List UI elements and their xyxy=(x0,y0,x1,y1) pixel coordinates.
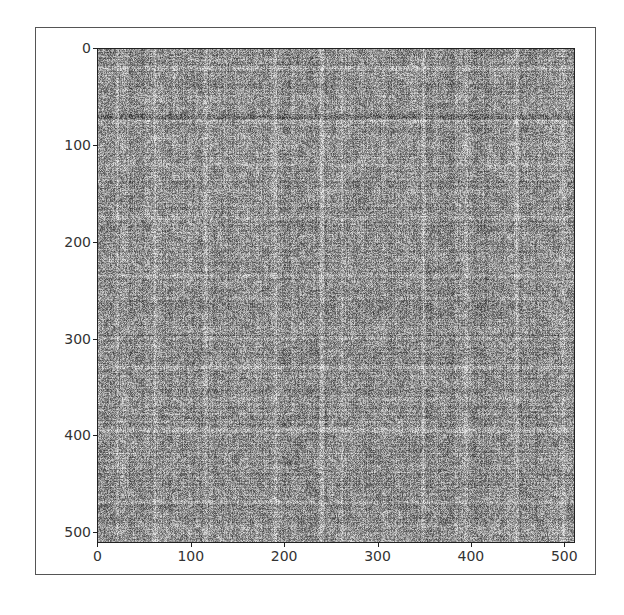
x-tick-mark xyxy=(378,543,379,547)
x-tick-mark xyxy=(284,543,285,547)
y-tick-mark xyxy=(93,242,97,243)
y-tick-mark xyxy=(93,339,97,340)
heatmap-image xyxy=(98,49,574,542)
y-tick-label: 200 xyxy=(51,235,91,249)
x-tick-mark xyxy=(471,543,472,547)
x-tick-label: 300 xyxy=(358,549,398,563)
y-tick-mark xyxy=(93,48,97,49)
y-tick-mark xyxy=(93,532,97,533)
y-tick-label: 500 xyxy=(51,525,91,539)
x-tick-label: 400 xyxy=(451,549,491,563)
x-tick-mark xyxy=(97,543,98,547)
heatmap-plot-area xyxy=(97,48,575,543)
x-tick-mark xyxy=(191,543,192,547)
x-tick-label: 200 xyxy=(264,549,304,563)
y-tick-label: 0 xyxy=(51,41,91,55)
x-tick-label: 0 xyxy=(77,549,117,563)
y-tick-mark xyxy=(93,145,97,146)
y-tick-label: 300 xyxy=(51,332,91,346)
y-tick-mark xyxy=(93,435,97,436)
y-tick-label: 400 xyxy=(51,428,91,442)
x-tick-label: 500 xyxy=(544,549,584,563)
x-tick-mark xyxy=(564,543,565,547)
y-tick-label: 100 xyxy=(51,138,91,152)
x-tick-label: 100 xyxy=(171,549,211,563)
